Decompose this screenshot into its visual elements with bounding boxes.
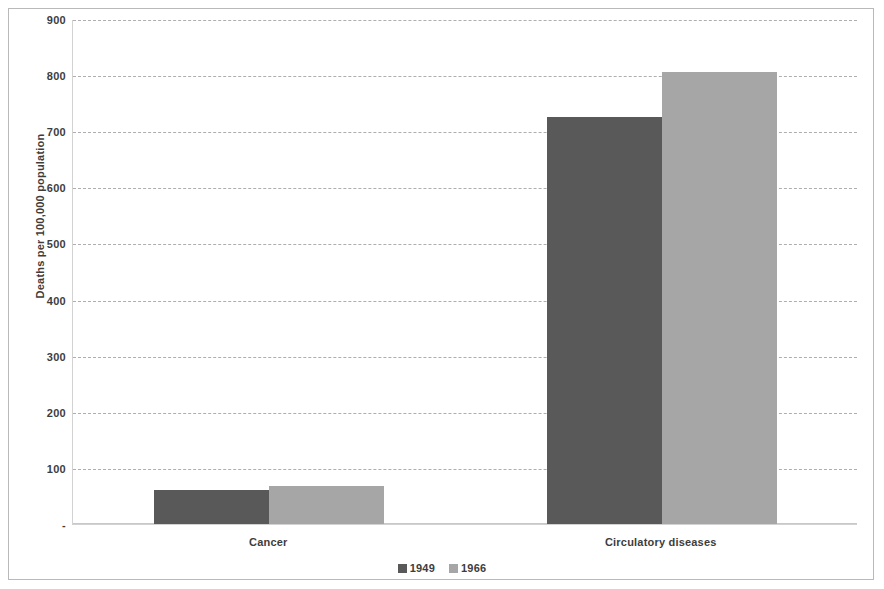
- y-axis-tick-label: 900: [6, 14, 66, 26]
- gridline: [73, 20, 857, 21]
- y-axis-tick-label: 300: [6, 351, 66, 363]
- plot-area: [72, 20, 857, 525]
- y-axis-tick-label: 400: [6, 295, 66, 307]
- legend-swatch-icon: [398, 564, 407, 573]
- legend-swatch-icon: [449, 564, 458, 573]
- legend-item-1949[interactable]: 1949: [398, 562, 435, 574]
- y-axis-tick-labels: -100200300400500600700800900: [0, 20, 66, 525]
- legend-label: 1949: [410, 562, 435, 574]
- y-axis-tick-label: 600: [6, 182, 66, 194]
- x-axis-category-label: Circulatory diseases: [541, 536, 781, 548]
- bar-cancer-1949[interactable]: [154, 490, 269, 524]
- chart-screenshot: Deaths per 100,000 population -100200300…: [0, 0, 884, 589]
- bar-circulatory-diseases-1966[interactable]: [662, 72, 777, 524]
- y-axis-tick-label: -: [6, 519, 66, 531]
- bar-cancer-1966[interactable]: [269, 486, 384, 524]
- y-axis-tick-label: 500: [6, 238, 66, 250]
- y-axis-tick-label: 700: [6, 126, 66, 138]
- legend-label: 1966: [461, 562, 486, 574]
- y-axis-tick-label: 200: [6, 407, 66, 419]
- bar-circulatory-diseases-1949[interactable]: [547, 117, 662, 524]
- legend-item-1966[interactable]: 1966: [449, 562, 486, 574]
- x-axis-category-label: Cancer: [148, 536, 388, 548]
- y-axis-tick-label: 800: [6, 70, 66, 82]
- y-axis-tick-label: 100: [6, 463, 66, 475]
- chart-legend: 19491966: [0, 562, 884, 574]
